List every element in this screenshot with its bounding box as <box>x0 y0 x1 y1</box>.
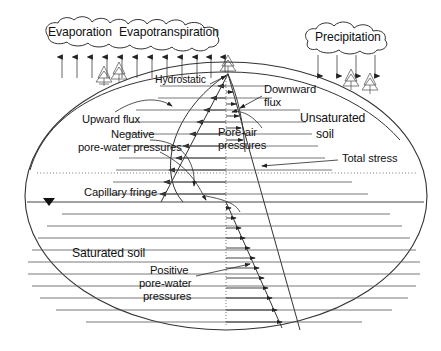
unsaturated-soil-label-line2: soil <box>316 128 334 141</box>
hydrostatic-label: Hydrostatic <box>155 74 206 85</box>
evapotranspiration-label: Evapotranspiration <box>119 26 219 39</box>
downward-flux-label-line2: flux <box>264 96 281 108</box>
upward-flux-label: Upward flux <box>82 113 140 125</box>
precipitation-arrows <box>318 55 375 76</box>
positive-pore-water-profile-line <box>226 202 282 328</box>
evaporation-label: Evaporation <box>48 26 112 39</box>
diagram-svg <box>0 0 441 351</box>
negative-pore-water-label-line1: Negative <box>111 128 154 140</box>
unsaturated-soil-label-line1: Unsaturated <box>300 112 365 125</box>
capillary-fringe-label: Capillary fringe <box>84 186 157 198</box>
positive-pore-water-label-line1: Positive <box>150 264 188 276</box>
saturated-soil-label: Saturated soil <box>72 247 145 260</box>
negative-pore-water-label-line2: pore-water pressures <box>78 141 182 153</box>
diagram-canvas: Evaporation Evapotranspiration Precipita… <box>0 0 441 351</box>
leader-lines <box>115 76 338 276</box>
saturated-zone-horizontal-lines <box>28 214 420 322</box>
pore-air-label-line2: pressures <box>218 139 266 151</box>
tree-icon-group <box>96 55 378 94</box>
precipitation-label: Precipitation <box>315 31 381 44</box>
total-stress-label: Total stress <box>342 152 397 164</box>
positive-pore-water-label-line2: pore-water <box>139 277 191 289</box>
pore-air-label-line1: Pore-air <box>218 126 257 138</box>
downward-flux-label-line1: Downward <box>264 83 316 95</box>
positive-pore-water-label-line3: pressures <box>143 290 191 302</box>
